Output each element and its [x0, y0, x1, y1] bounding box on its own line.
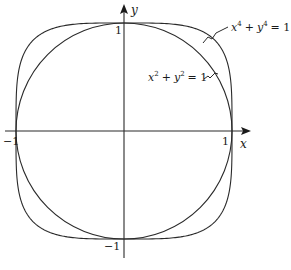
x-tick-one: 1	[222, 135, 229, 148]
axes	[5, 12, 244, 258]
superellipse-equation-label: x4+y4= 1	[231, 20, 290, 34]
x-tick-neg-one: −1	[3, 135, 19, 148]
circle-equation-label: x2+y2= 1	[148, 70, 207, 84]
y-axis-label: y	[130, 3, 138, 17]
y-tick-one: 1	[115, 24, 122, 37]
superellipse-diagram: −1 1 1 −1 x y x4+y4= 1 x2+y2= 1	[0, 0, 291, 270]
x-axis-label: x	[240, 137, 247, 151]
y-tick-neg-one: −1	[104, 240, 120, 253]
